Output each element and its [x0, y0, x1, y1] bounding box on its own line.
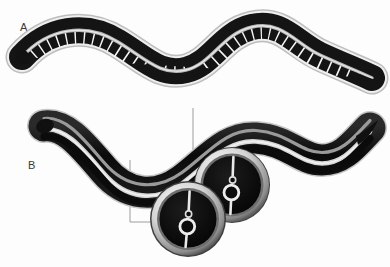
cross-section-anterior-nerve-cord [186, 211, 192, 217]
cross-section-anterior-dorsal-ray [189, 192, 190, 213]
cross-section-posterior-nerve-cord [230, 177, 236, 183]
nematode-figure: A B [0, 0, 390, 267]
cross-section-posterior-dorsal-ray [233, 157, 234, 178]
figure-root: A B [0, 0, 390, 267]
cross-section-posterior-intestine-ring [224, 185, 239, 200]
cross-section-anterior-intestine-ring [180, 219, 195, 234]
panel-a-group: A [13, 21, 378, 81]
panel-b-label: B [28, 159, 36, 171]
cross-section-anterior[interactable] [150, 181, 226, 257]
panel-b-group: B [28, 108, 378, 257]
worm-a-illustration [13, 26, 378, 82]
